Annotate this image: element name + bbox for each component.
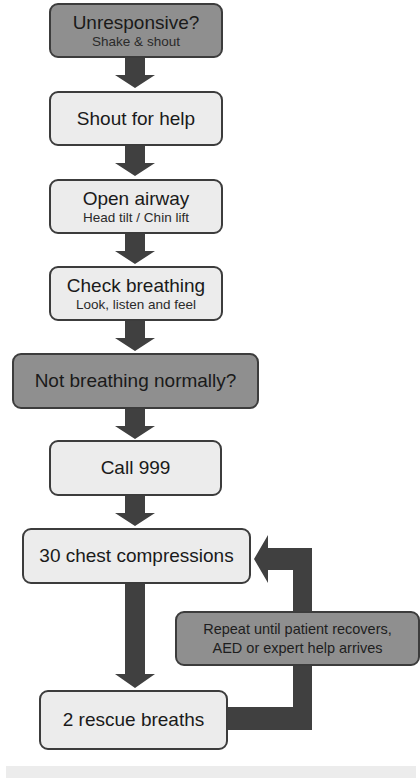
down-arrow-icon [115,496,155,526]
step-rescue-breaths: 2 rescue breaths [39,690,228,750]
step-title: 2 rescue breaths [63,709,205,731]
step-title: Shout for help [77,108,195,130]
loop-note-line1: Repeat until patient recovers, [203,620,392,639]
loop-note-line2: AED or expert help arrives [212,639,382,658]
step-subtitle: Head tilt / Chin lift [83,210,189,226]
down-arrow-icon [115,146,155,176]
down-arrow-icon [115,584,155,688]
step-title: Not breathing normally? [35,370,237,392]
step-title: Unresponsive? [73,12,200,34]
step-title: 30 chest compressions [39,545,233,567]
down-arrow-icon [115,409,155,439]
step-open-airway: Open airway Head tilt / Chin lift [49,179,223,234]
step-chest-compressions: 30 chest compressions [22,528,251,584]
down-arrow-icon [115,58,155,88]
loop-note: Repeat until patient recovers, AED or ex… [175,611,420,666]
step-title: Open airway [83,188,190,210]
step-subtitle: Look, listen and feel [76,297,196,313]
step-not-breathing-normally: Not breathing normally? [12,353,259,409]
loop-arrow-left-icon [254,535,294,583]
step-title: Check breathing [67,275,205,297]
down-arrow-icon [115,234,155,264]
step-title: Call 999 [101,457,171,479]
step-check-breathing: Check breathing Look, listen and feel [49,266,223,321]
bottom-strip [6,766,416,778]
step-call-999: Call 999 [49,440,222,496]
step-unresponsive: Unresponsive? Shake & shout [49,3,223,58]
step-subtitle: Shake & shout [92,34,180,50]
down-arrow-icon [115,321,155,351]
step-shout-for-help: Shout for help [49,91,223,146]
